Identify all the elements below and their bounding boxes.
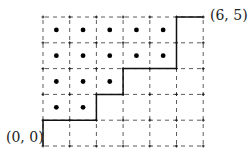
lattice-path-diagram: (0, 0) (6, 5)	[0, 0, 250, 160]
lattice-node	[202, 41, 205, 44]
lattice-node	[95, 67, 98, 70]
lattice-node	[68, 41, 71, 44]
lattice-node	[42, 41, 45, 44]
dot-marker	[161, 53, 166, 58]
dot-marker	[134, 28, 139, 33]
lattice-node	[202, 93, 205, 96]
lattice-node	[148, 41, 151, 44]
lattice-node	[148, 145, 151, 148]
lattice-node	[122, 119, 125, 122]
lattice-node	[122, 41, 125, 44]
lattice-node	[175, 119, 178, 122]
lattice-node	[148, 119, 151, 122]
lattice-node	[95, 145, 98, 148]
lattice-node	[202, 67, 205, 70]
lattice-node	[122, 16, 125, 19]
start-point-label: (0, 0)	[6, 129, 44, 145]
lattice-node	[148, 16, 151, 19]
dot-marker	[107, 28, 112, 33]
dot-marker	[107, 79, 112, 84]
dot-marker	[81, 53, 86, 58]
lattice-node	[202, 119, 205, 122]
lattice-node	[42, 93, 45, 96]
lattice-node	[122, 145, 125, 148]
dot-marker	[81, 79, 86, 84]
dot-marker	[54, 79, 59, 84]
lattice-node	[68, 67, 71, 70]
dot-marker	[54, 53, 59, 58]
lattice-node	[175, 145, 178, 148]
lattice-node	[95, 41, 98, 44]
dot-marker	[81, 105, 86, 110]
lattice-node	[202, 145, 205, 148]
dot-marker	[54, 28, 59, 33]
dot-marker	[161, 28, 166, 33]
dot-marker	[54, 105, 59, 110]
dot-marker	[134, 53, 139, 58]
lattice-node	[95, 16, 98, 19]
lattice-node	[175, 93, 178, 96]
lattice-node	[68, 16, 71, 19]
end-point-label: (6, 5)	[210, 7, 248, 23]
lattice-node	[68, 145, 71, 148]
lattice-node	[148, 93, 151, 96]
dot-marker	[81, 28, 86, 33]
dot-marker	[107, 53, 112, 58]
lattice-node	[42, 16, 45, 19]
lattice-node	[42, 67, 45, 70]
lattice-node	[68, 93, 71, 96]
